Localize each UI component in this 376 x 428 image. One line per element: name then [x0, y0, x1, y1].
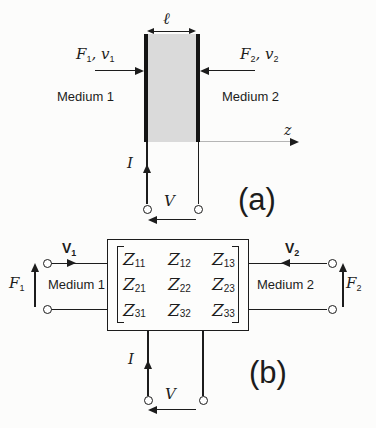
medium2-label-b: Medium 2 — [257, 278, 314, 291]
terminal-b-right-bottom — [328, 305, 337, 314]
terminal-b-left-top — [43, 259, 52, 268]
medium1-label-a: Medium 1 — [57, 90, 114, 103]
dimension-arrowhead-right-icon — [189, 28, 196, 34]
lead-left-a — [146, 142, 148, 204]
matrix-entry: Z12 — [168, 247, 212, 272]
current-label-a: I — [127, 156, 133, 171]
dimension-line — [150, 31, 194, 32]
voltage-line-b — [156, 409, 196, 410]
voltage-line-a — [156, 219, 196, 220]
terminal-b-bottom-left — [144, 396, 153, 405]
transducer-slab — [144, 34, 200, 142]
matrix-entry: Z31 — [123, 298, 168, 323]
current-arrowhead-b-icon — [144, 360, 152, 369]
lead-right-b — [202, 331, 204, 396]
wire-left-top — [51, 263, 107, 265]
lead-right-a — [198, 142, 200, 204]
wire-right-bottom — [249, 309, 327, 311]
v2-label: V2 — [285, 241, 299, 258]
voltage-arrowhead-a-icon — [148, 216, 157, 224]
dimension-arrowhead-left-icon — [147, 28, 154, 34]
current-arrowhead-a-icon — [143, 164, 151, 173]
f1-arrowhead-icon — [31, 263, 39, 272]
impedance-matrix: Z11 Z12 Z13 Z21 Z22 Z23 Z31 Z32 Z33 — [123, 247, 231, 323]
f2-arrow-line — [342, 266, 344, 307]
length-label: ℓ — [163, 11, 170, 27]
terminal-b-bottom-right — [199, 396, 208, 405]
f1-arrow-line — [34, 266, 36, 307]
figure-two-port-transducer: ℓ F1, v1 F2, v2 Medium 1 Medium 2 z I V … — [0, 0, 376, 428]
force-velocity-label-right: F2, v2 — [240, 47, 278, 64]
matrix-entry: Z11 — [123, 247, 168, 272]
z-axis-label: z — [284, 123, 291, 137]
v2-arrowhead-icon — [281, 259, 290, 267]
matrix-entry: Z32 — [168, 298, 212, 323]
caption-b: (b) — [249, 357, 287, 388]
current-label-b: I — [128, 352, 134, 367]
matrix-entry: Z23 — [212, 272, 235, 297]
voltage-arrowhead-b-icon — [148, 406, 157, 414]
f2-arrowhead-icon — [339, 263, 347, 272]
medium1-label-b: Medium 1 — [48, 278, 105, 291]
matrix-entry: Z21 — [123, 272, 168, 297]
force-line-left — [95, 70, 136, 71]
v1-arrowhead-icon — [67, 259, 76, 267]
f1-label: F1 — [9, 276, 24, 293]
force-line-right — [208, 70, 255, 71]
voltage-label-b: V — [165, 387, 176, 402]
caption-a: (a) — [238, 184, 276, 215]
terminal-b-right-top — [328, 259, 337, 268]
force-arrowhead-left-icon — [135, 67, 144, 75]
matrix-entry: Z22 — [168, 272, 212, 297]
z-axis-line — [200, 141, 292, 142]
z-axis-arrowhead-icon — [290, 138, 299, 146]
voltage-label-a: V — [164, 194, 175, 209]
medium2-label-a: Medium 2 — [222, 90, 279, 103]
terminal-a-left — [143, 205, 152, 214]
force-arrowhead-right-icon — [200, 67, 209, 75]
v1-label: V1 — [62, 241, 76, 258]
terminal-a-right — [194, 205, 203, 214]
matrix-entry: Z13 — [212, 247, 235, 272]
terminal-b-left-bottom — [43, 305, 52, 314]
wire-left-bottom — [51, 309, 107, 311]
matrix-entry: Z33 — [212, 298, 235, 323]
force-velocity-label-left: F1, v1 — [76, 47, 114, 64]
f2-label: F2 — [346, 276, 361, 293]
